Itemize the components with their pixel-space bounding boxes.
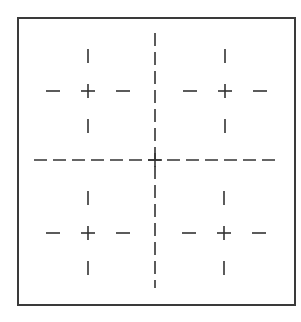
crosshair-quadrant-diagram bbox=[0, 0, 301, 322]
diagram-background bbox=[0, 0, 301, 322]
